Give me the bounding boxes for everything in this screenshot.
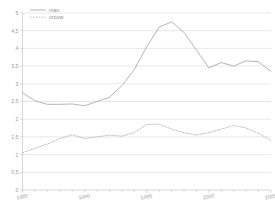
x-tick-label: 1985 [16, 192, 29, 200]
series-line-man [23, 22, 272, 106]
x-tick-label: 1995 [140, 192, 153, 200]
y-tick-label: 3 [16, 81, 19, 87]
gridlines [23, 13, 272, 172]
x-tick-label: 1990 [78, 192, 91, 200]
legend-label-vrouw: vrouw [49, 14, 63, 20]
line-chart: 00,511,522,533,544,55 198519901995200020… [0, 0, 275, 211]
series-line-vrouw [23, 124, 272, 153]
series-lines [23, 22, 272, 153]
y-tick-label: 5 [16, 10, 19, 16]
y-tick-label: 3,5 [11, 63, 18, 69]
x-axis [23, 190, 272, 193]
y-tick-label: 2,5 [11, 98, 18, 104]
chart-legend: manvrouw [30, 7, 63, 20]
y-tick-label: 4,5 [11, 28, 18, 34]
x-tick-label: 2005 [264, 192, 275, 200]
chart-canvas: 00,511,522,533,544,55 198519901995200020… [0, 0, 275, 211]
y-tick-label: 1 [16, 152, 19, 158]
y-tick-label: 2 [16, 116, 19, 122]
y-tick-label: 0,5 [11, 169, 18, 175]
y-axis-tick-labels: 00,511,522,533,544,55 [11, 10, 18, 193]
y-tick-label: 4 [16, 45, 19, 51]
y-tick-label: 1,5 [11, 134, 18, 140]
legend-label-man: man [49, 7, 60, 13]
x-tick-label: 2000 [202, 192, 215, 200]
y-tick-label: 0 [16, 187, 19, 193]
x-axis-tick-labels: 19851990199520002005 [16, 192, 275, 200]
y-axis [20, 13, 22, 190]
